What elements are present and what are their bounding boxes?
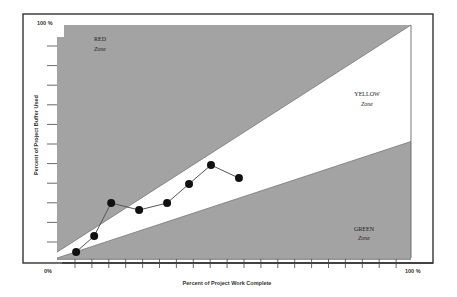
x-axis-title: Percent of Project Work Complete xyxy=(183,280,272,286)
red-zone-sub: Zone xyxy=(94,46,106,52)
data-point xyxy=(185,180,193,188)
yellow-zone-title: YELLOW xyxy=(354,91,380,97)
data-point xyxy=(135,206,143,214)
green-zone-title: GREEN xyxy=(354,226,375,232)
green-zone-sub: Zone xyxy=(358,235,370,241)
data-point xyxy=(72,248,80,256)
y-axis-title: Percent of Project Buffer Used xyxy=(33,95,39,175)
buffer-chart: 100 % 0% 100 % Percent of Project Work C… xyxy=(0,0,457,297)
data-point xyxy=(90,232,98,240)
data-point xyxy=(163,199,171,207)
y-top-label: 100 % xyxy=(37,20,53,26)
data-point xyxy=(207,161,215,169)
yellow-zone-sub: Zone xyxy=(361,101,373,107)
x-zero-label: 0% xyxy=(44,268,52,274)
data-point xyxy=(107,199,115,207)
red-zone-title: RED xyxy=(94,36,107,42)
x-end-label: 100 % xyxy=(405,268,421,274)
data-point xyxy=(235,174,243,182)
